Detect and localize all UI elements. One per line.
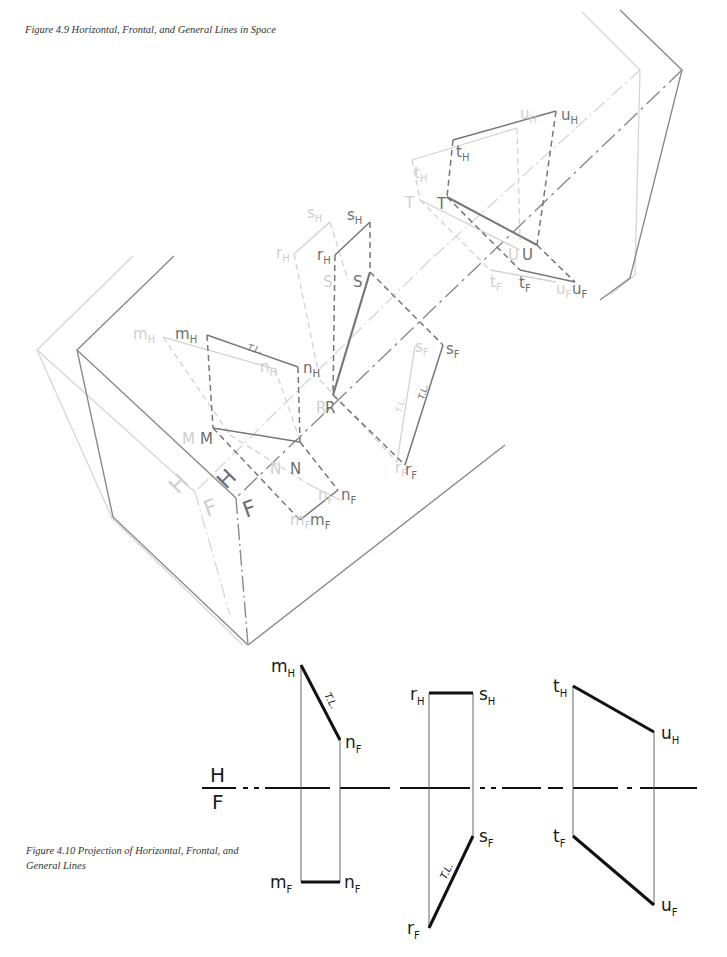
label-s-f: sF	[446, 340, 460, 360]
label-t-h: tH	[456, 143, 469, 163]
space-labels: mH nH M N nF mF rH sH S R sF rF tH uH T …	[175, 106, 588, 531]
ghost-label-N: N	[270, 460, 281, 478]
ghost-plane-h: H	[164, 469, 193, 498]
ghost-label-s-f: sF	[415, 338, 429, 358]
proj-label-t-h: tH	[553, 676, 567, 699]
ghost-label-s-h: sH	[307, 204, 322, 224]
label-R: R	[325, 399, 335, 417]
fold-label-h: H	[210, 763, 225, 787]
label-u-f: uF	[572, 280, 588, 300]
label-r-h: rH	[317, 246, 331, 266]
plane-label-h: H	[212, 464, 241, 493]
ghost-label-u-f: uF	[556, 280, 572, 300]
label-r-f: rF	[405, 461, 417, 481]
fold-label-f: F	[212, 790, 224, 814]
proj-label-r-h: rH	[410, 684, 425, 707]
plane-label-f: F	[239, 495, 259, 523]
ghost-label-n-f: nF	[318, 486, 334, 506]
proj-label-s-f: sF	[479, 826, 494, 849]
ghost-plane-f: F	[200, 494, 220, 522]
ghost-label-r-h: rH	[276, 244, 290, 264]
proj-label-n-f: nF	[344, 872, 361, 895]
label-U: U	[522, 246, 533, 264]
proj-label-u-h: uH	[661, 723, 679, 746]
proj-label-n-f-top: nF	[345, 732, 362, 755]
ghost-label-U: U	[508, 246, 519, 264]
proj-label-r-f: rF	[407, 918, 420, 941]
ghost-lines	[163, 128, 556, 500]
figure-4-9-drawing: mH nH M N nF mF rH sH S R sF rF tH uH T …	[0, 0, 727, 957]
tl-mark-rs: T.L.	[416, 383, 430, 400]
ghost-label-m-h: mH	[133, 325, 155, 345]
label-u-h: uH	[561, 106, 578, 126]
ghost-label-t-h: tH	[414, 164, 427, 184]
ghost-label-n-h: nH	[260, 358, 277, 378]
proj-label-s-h: sH	[479, 684, 495, 707]
label-N: N	[290, 460, 301, 478]
ghost-label-M: M	[182, 430, 195, 448]
ghost-labels: mH nH M N nF mF rH sH S R sF rF tH uH T …	[133, 105, 572, 531]
ghost-box	[37, 12, 640, 645]
figure-4-10-drawing: H F mH nF mF nF rH sH rF sF tH uH tF uF …	[202, 656, 697, 941]
ghost-label-S: S	[323, 273, 333, 291]
proj-label-t-f: tF	[553, 826, 566, 849]
proj-label-m-f: mF	[270, 872, 293, 895]
ghost-label-T: T	[404, 194, 415, 212]
proj-label-u-f: uF	[661, 895, 678, 918]
label-S: S	[353, 273, 363, 291]
ghost-label-t-f: tF	[490, 273, 502, 293]
proj-label-m-h: mH	[271, 656, 295, 679]
tl-mark-mn: T.L.	[246, 342, 263, 356]
label-m-h: mH	[175, 325, 197, 345]
label-n-h: nH	[303, 359, 320, 379]
label-n-f: nF	[341, 486, 357, 506]
label-M: M	[200, 430, 213, 448]
space-lines	[207, 111, 575, 520]
label-m-f: mF	[310, 511, 331, 531]
label-s-h: sH	[347, 206, 362, 226]
main-box	[77, 10, 682, 645]
ghost-label-u-h: uH	[520, 105, 537, 125]
label-T: T	[436, 195, 447, 213]
figure-4-10-caption: Figure 4.10 Projection of Horizontal, Fr…	[26, 843, 246, 873]
